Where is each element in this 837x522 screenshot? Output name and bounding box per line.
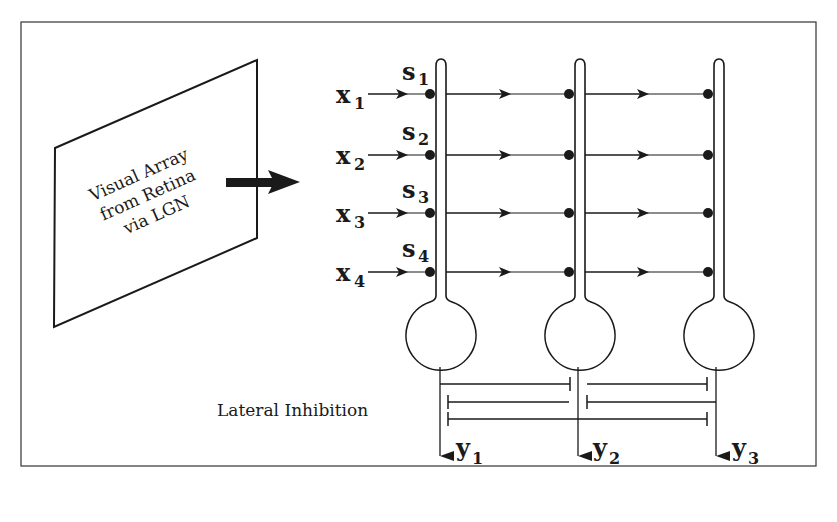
input-label-x4: x	[336, 258, 351, 287]
svg-text:2: 2	[418, 130, 429, 149]
svg-text:4: 4	[354, 272, 365, 291]
svg-text:1: 1	[472, 449, 483, 468]
output-labels: y 1 y 2 y 3	[455, 433, 759, 468]
svg-text:2: 2	[354, 155, 365, 174]
input-label-x1: x	[336, 80, 351, 109]
synapse-label-s4: s	[402, 234, 416, 263]
svg-text:1: 1	[418, 70, 429, 89]
synapse-label-s2: s	[402, 117, 416, 146]
neural-network-diagram: Visual Array from Retina via LGN	[0, 0, 837, 522]
neuron-1	[406, 59, 476, 370]
synapse-label-s1: s	[402, 57, 416, 86]
neuron-2	[545, 59, 615, 370]
input-lines	[368, 94, 704, 272]
output-axons	[440, 367, 716, 456]
synapse-label-s3: s	[402, 175, 416, 204]
neuron-3	[684, 59, 754, 370]
svg-text:3: 3	[354, 213, 365, 232]
svg-text:4: 4	[418, 247, 429, 266]
synapse-dots	[425, 89, 713, 277]
svg-text:3: 3	[748, 449, 759, 468]
output-label-y1: y	[455, 433, 471, 462]
input-labels: x 1 x 2 x 3 x 4	[336, 80, 365, 291]
svg-text:2: 2	[609, 449, 620, 468]
input-label-x3: x	[336, 199, 351, 228]
output-label-y3: y	[731, 433, 747, 462]
lateral-inhibition-label: Lateral Inhibition	[217, 400, 368, 420]
output-label-y2: y	[592, 433, 608, 462]
svg-text:3: 3	[418, 188, 429, 207]
synapse-labels: s 1 s 2 s 3 s 4	[402, 57, 429, 266]
svg-text:1: 1	[354, 94, 365, 113]
input-label-x2: x	[336, 141, 351, 170]
